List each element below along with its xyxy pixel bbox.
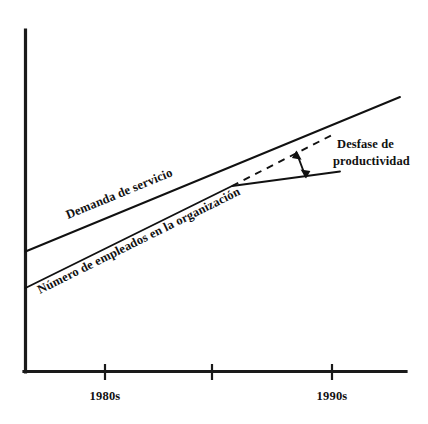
gap-label-line1: Desfase de (337, 137, 394, 151)
chart-figure: 1980s 1990s Desfase de productividad Dem… (0, 0, 428, 424)
gap-label-line2: productividad (333, 154, 410, 168)
x-tick-label-1980s: 1980s (90, 389, 121, 403)
x-tick-label-1990s: 1990s (317, 389, 348, 403)
productivity-gap-line-chart: 1980s 1990s Desfase de productividad Dem… (0, 0, 428, 424)
